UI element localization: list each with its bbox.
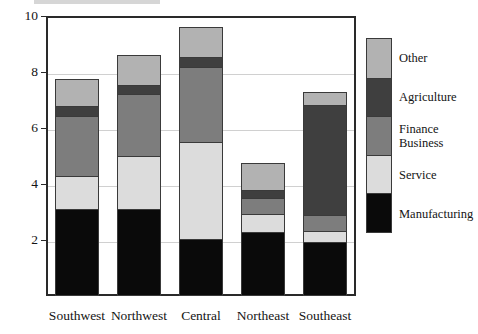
bar-segment-southwest-finance-business[interactable] xyxy=(56,116,98,176)
bar-segment-central-other[interactable] xyxy=(180,28,222,57)
legend-label-other: Other xyxy=(399,51,427,65)
bar-segment-central-agriculture[interactable] xyxy=(180,57,222,67)
x-tick-label-southwest: Southwest xyxy=(49,308,105,324)
bar-segment-northwest-finance-business[interactable] xyxy=(118,94,160,156)
x-tick-label-northeast: Northeast xyxy=(237,308,289,324)
bar-northeast[interactable] xyxy=(241,163,285,296)
legend-label-column: OtherAgricultureFinance BusinessServiceM… xyxy=(399,38,478,233)
bar-segment-northeast-agriculture[interactable] xyxy=(242,190,284,198)
legend-swatch-finance[interactable] xyxy=(367,116,391,155)
x-tick-label-northwest: Northwest xyxy=(111,308,167,324)
legend-swatch-other[interactable] xyxy=(367,39,391,78)
bar-northwest[interactable] xyxy=(117,55,161,296)
legend-label-finance: Finance Business xyxy=(399,122,443,151)
bar-segment-southeast-other[interactable] xyxy=(304,93,346,105)
bar-segment-northeast-other[interactable] xyxy=(242,164,284,190)
y-tick-label-6: 6 xyxy=(31,121,38,135)
bar-segment-northeast-service[interactable] xyxy=(242,214,284,232)
y-axis-labels: 246810 xyxy=(0,0,44,334)
bar-segment-northeast-finance-business[interactable] xyxy=(242,198,284,213)
bar-segment-southeast-finance-business[interactable] xyxy=(304,215,346,232)
legend-swatch-service[interactable] xyxy=(367,155,391,194)
top-edge-artifact xyxy=(34,0,160,4)
legend-label-manufacturing: Manufacturing xyxy=(399,207,473,221)
y-tick-label-8: 8 xyxy=(31,65,38,79)
legend-label-service: Service xyxy=(399,168,436,182)
bar-segment-northwest-other[interactable] xyxy=(118,56,160,85)
bar-southwest[interactable] xyxy=(55,79,99,296)
y-tick-label-10: 10 xyxy=(25,9,39,23)
bar-southeast[interactable] xyxy=(303,92,347,296)
bar-segment-southeast-agriculture[interactable] xyxy=(304,105,346,215)
legend-label-agriculture: Agriculture xyxy=(399,90,457,104)
bar-segment-central-service[interactable] xyxy=(180,142,222,239)
legend-swatch-agriculture[interactable] xyxy=(367,78,391,117)
bar-segment-northwest-manufacturing[interactable] xyxy=(118,209,160,295)
bar-segment-northwest-agriculture[interactable] xyxy=(118,85,160,93)
y-tick-label-2: 2 xyxy=(31,233,38,247)
bar-segment-northwest-service[interactable] xyxy=(118,156,160,209)
bars-layer xyxy=(46,16,356,296)
x-tick-label-southeast: Southeast xyxy=(299,308,352,324)
bar-segment-southwest-other[interactable] xyxy=(56,80,98,106)
x-tick-label-central: Central xyxy=(181,308,221,324)
bar-segment-southwest-agriculture[interactable] xyxy=(56,106,98,116)
y-tick-label-4: 4 xyxy=(31,177,38,191)
bar-segment-northeast-manufacturing[interactable] xyxy=(242,232,284,295)
legend-swatch-column xyxy=(366,38,392,233)
x-axis-labels: SouthwestNorthwestCentralNortheastSouthe… xyxy=(46,302,356,330)
bar-segment-central-manufacturing[interactable] xyxy=(180,239,222,295)
bar-segment-southeast-service[interactable] xyxy=(304,231,346,242)
bar-segment-southwest-service[interactable] xyxy=(56,176,98,209)
legend: OtherAgricultureFinance BusinessServiceM… xyxy=(366,38,471,233)
bar-segment-central-finance-business[interactable] xyxy=(180,67,222,142)
bar-segment-southwest-manufacturing[interactable] xyxy=(56,209,98,295)
bar-segment-southeast-manufacturing[interactable] xyxy=(304,242,346,295)
legend-swatch-manufacturing[interactable] xyxy=(367,193,391,232)
bar-central[interactable] xyxy=(179,27,223,296)
